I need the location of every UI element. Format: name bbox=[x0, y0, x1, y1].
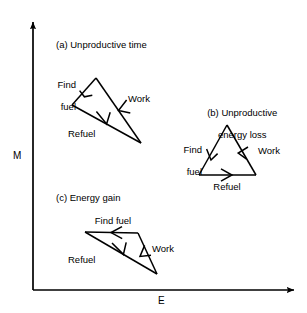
cycle-b-find-fuel-line1: Find bbox=[184, 144, 202, 155]
figure-canvas: M E (a) Unproductive time Find fuel Work… bbox=[0, 0, 307, 313]
cycle-c-group bbox=[85, 227, 157, 274]
cycle-c-label-find-fuel: Find fuel bbox=[84, 215, 142, 226]
cycle-b-find-fuel-line2: fuel bbox=[187, 166, 202, 177]
cycle-a-arrow-find-fuel bbox=[80, 91, 93, 97]
cycle-b-label-refuel: Refuel bbox=[198, 181, 256, 192]
cycle-a-find-fuel-line1: Find bbox=[58, 79, 76, 90]
cycle-a-label-find-fuel: Find fuel bbox=[38, 68, 76, 123]
cycle-b-label-find-fuel: Find fuel bbox=[166, 133, 202, 188]
diagram-vector-layer bbox=[0, 0, 307, 313]
cycle-b-caption-line1: (b) Unproductive bbox=[207, 107, 277, 118]
cycle-a-find-fuel-line2: fuel bbox=[61, 101, 76, 112]
cycle-c-caption: (c) Energy gain bbox=[56, 192, 120, 203]
y-axis-label: M bbox=[13, 150, 21, 161]
x-axis-label: E bbox=[158, 295, 165, 306]
cycle-a-label-work: Work bbox=[128, 93, 150, 104]
cycle-b-caption-line2: energy loss bbox=[218, 129, 267, 140]
cycle-c-label-refuel: Refuel bbox=[68, 254, 95, 265]
cycle-b-label-work: Work bbox=[258, 145, 280, 156]
cycle-a-label-refuel: Refuel bbox=[68, 128, 95, 139]
cycle-a-caption: (a) Unproductive time bbox=[56, 39, 147, 50]
cycle-c-label-work: Work bbox=[152, 243, 174, 254]
